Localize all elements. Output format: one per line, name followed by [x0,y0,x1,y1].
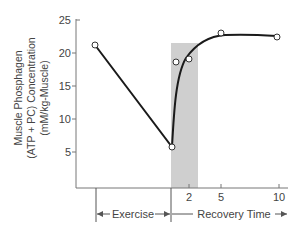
svg-text:10: 10 [273,191,285,203]
x-tick-labels: 2 5 10 [186,191,285,203]
svg-text:20: 20 [59,47,71,59]
phosphagen-chart: 25 20 15 10 5 Muscle Phosphagen (ATP + P… [0,0,300,234]
svg-text:(mM/kg-Muscle): (mM/kg-Muscle) [38,60,50,135]
svg-text:5: 5 [65,146,71,158]
exercise-label: Exercise [112,208,154,220]
svg-text:10: 10 [59,113,71,125]
svg-text:Muscle Phosphagen: Muscle Phosphagen [12,50,24,145]
svg-text:25: 25 [59,14,71,26]
data-point [186,56,192,62]
recovery-time-label: Recovery Time [197,208,270,220]
x-ticks [189,184,279,188]
y-tick-labels: 25 20 15 10 5 [59,14,71,158]
data-point [173,59,179,65]
data-point [218,30,224,36]
svg-text:5: 5 [218,191,224,203]
svg-text:2: 2 [186,191,192,203]
data-point [169,144,175,150]
y-axis-label: Muscle Phosphagen (ATP + PC) Concentrati… [12,37,50,158]
svg-text:(ATP + PC) Concentration: (ATP + PC) Concentration [25,37,37,158]
data-point [92,42,98,48]
svg-text:15: 15 [59,80,71,92]
data-point [274,34,280,40]
